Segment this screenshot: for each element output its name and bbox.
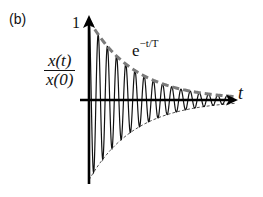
damped-oscillation-plot	[0, 0, 263, 197]
oscillation-curve	[89, 20, 230, 172]
upper-envelope-line	[89, 20, 236, 97]
